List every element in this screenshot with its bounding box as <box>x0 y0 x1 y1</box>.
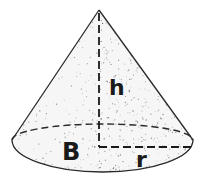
stipple-dot <box>35 75 36 76</box>
stipple-dot <box>161 118 162 119</box>
stipple-dot <box>131 63 132 64</box>
stipple-dot <box>35 33 36 34</box>
stipple-dot <box>161 91 162 92</box>
stipple-dot <box>126 45 127 46</box>
stipple-dot <box>76 110 77 111</box>
stipple-dot <box>121 37 122 38</box>
stipple-dot <box>83 159 84 160</box>
stipple-dot <box>163 55 164 56</box>
stipple-dot <box>127 27 128 28</box>
stipple-dot <box>171 11 172 12</box>
stipple-dot <box>86 12 87 13</box>
stipple-dot <box>186 74 187 75</box>
stipple-dot <box>162 145 163 146</box>
stipple-dot <box>159 43 160 44</box>
stipple-dot <box>168 21 169 22</box>
stipple-dot <box>157 77 158 78</box>
stipple-dot <box>130 60 131 61</box>
stipple-dot <box>67 166 68 167</box>
stipple-dot <box>189 10 190 11</box>
stipple-dot <box>100 167 101 168</box>
stipple-dot <box>148 57 149 58</box>
stipple-dot <box>156 141 157 142</box>
stipple-dot <box>145 14 146 15</box>
stipple-dot <box>151 31 152 32</box>
stipple-dot <box>112 50 113 51</box>
stipple-dot <box>145 139 146 140</box>
stipple-dot <box>18 147 19 148</box>
stipple-dot <box>178 153 179 154</box>
stipple-dot <box>25 169 26 170</box>
stipple-dot <box>83 143 84 144</box>
stipple-dot <box>178 64 179 65</box>
stipple-dot <box>139 125 140 126</box>
stipple-dot <box>129 79 130 80</box>
stipple-dot <box>64 133 65 134</box>
stipple-dot <box>125 96 126 97</box>
stipple-dot <box>151 138 152 139</box>
stipple-dot <box>108 24 109 25</box>
stipple-dot <box>122 12 123 13</box>
stipple-dot <box>185 59 186 60</box>
stipple-dot <box>161 166 162 167</box>
stipple-dot <box>76 76 77 77</box>
stipple-dot <box>69 42 70 43</box>
stipple-dot <box>125 102 126 103</box>
stipple-dot <box>160 68 161 69</box>
stipple-dot <box>192 136 193 137</box>
stipple-dot <box>142 106 143 107</box>
stipple-dot <box>13 134 14 135</box>
stipple-dot <box>129 166 130 167</box>
stipple-dot <box>46 113 47 114</box>
stipple-dot <box>183 70 184 71</box>
stipple-dot <box>88 157 89 158</box>
stipple-dot <box>126 76 127 77</box>
stipple-dot <box>173 91 174 92</box>
stipple-dot <box>139 34 140 35</box>
stipple-dot <box>179 67 180 68</box>
stipple-dot <box>87 154 88 155</box>
stipple-dot <box>138 139 139 140</box>
stipple-dot <box>120 154 121 155</box>
stipple-dot <box>69 132 70 133</box>
stipple-dot <box>149 157 150 158</box>
stipple-dot <box>131 78 132 79</box>
stipple-dot <box>45 16 46 17</box>
stipple-dot <box>60 171 61 172</box>
stipple-dot <box>44 39 45 40</box>
stipple-dot <box>83 139 84 140</box>
stipple-dot <box>143 139 144 140</box>
stipple-dot <box>187 168 188 169</box>
stipple-dot <box>40 26 41 27</box>
stipple-dot <box>162 88 163 89</box>
stipple-dot <box>42 74 43 75</box>
stipple-dot <box>188 164 189 165</box>
stipple-dot <box>123 28 124 29</box>
stipple-dot <box>175 86 176 87</box>
stipple-dot <box>45 22 46 23</box>
stipple-dot <box>182 43 183 44</box>
stipple-dot <box>68 168 69 169</box>
stipple-dot <box>18 97 19 98</box>
stipple-dot <box>189 128 190 129</box>
stipple-dot <box>74 57 75 58</box>
stipple-dot <box>61 21 62 22</box>
stipple-dot <box>99 167 100 168</box>
stipple-dot <box>106 49 107 50</box>
stipple-dot <box>114 27 115 28</box>
stipple-dot <box>182 75 183 76</box>
stipple-dot <box>184 118 185 119</box>
stipple-dot <box>30 79 31 80</box>
stipple-dot <box>157 12 158 13</box>
stipple-dot <box>130 41 131 42</box>
stipple-dot <box>181 26 182 27</box>
stipple-dot <box>156 62 157 63</box>
stipple-dot <box>134 39 135 40</box>
stipple-dot <box>169 83 170 84</box>
stipple-dot <box>21 19 22 20</box>
stipple-dot <box>185 10 186 11</box>
stipple-dot <box>186 48 187 49</box>
stipple-dot <box>35 159 36 160</box>
stipple-dot <box>166 84 167 85</box>
stipple-dot <box>170 130 171 131</box>
